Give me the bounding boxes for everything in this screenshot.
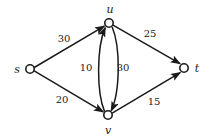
edge-group-curved (99, 27, 119, 112)
edge-label-u-v: 30 (117, 63, 130, 73)
edge-s-v (34, 71, 103, 112)
edge-label-v-u: 10 (80, 63, 93, 73)
node-u[interactable] (105, 19, 113, 27)
node-v[interactable] (104, 111, 112, 119)
edge-v-u (99, 28, 106, 112)
edge-v-t (112, 73, 180, 114)
node-label-s: s (14, 64, 20, 75)
edge-label-v-t: 15 (148, 97, 161, 107)
graph-canvas (0, 0, 211, 140)
node-label-v: v (105, 125, 111, 136)
edge-label-u-t: 25 (144, 29, 157, 39)
node-label-u: u (106, 4, 113, 15)
node-label-t: t (195, 63, 199, 74)
node-group (26, 19, 188, 119)
flow-network-figure: s u v t 30 20 25 15 10 30 (0, 0, 211, 140)
edge-label-s-u: 30 (58, 34, 71, 44)
node-t[interactable] (180, 64, 188, 72)
edge-label-s-v: 20 (56, 95, 69, 105)
node-s[interactable] (26, 65, 34, 73)
